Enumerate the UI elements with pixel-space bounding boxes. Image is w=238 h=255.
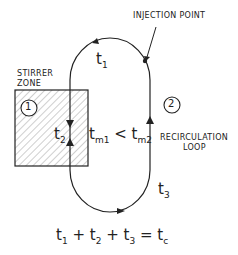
injection-pointer (147, 27, 156, 57)
zone-2-number: 2 (168, 98, 174, 109)
circulation-time-equation: t1 + t2 + t3 = tc (56, 226, 168, 246)
recirculation-label: RECIRCULATION (160, 133, 228, 143)
recirculation-diagram: INJECTION POINT STIRRER ZONE 1 2 RECIRCU… (0, 0, 238, 255)
mixing-time-relation: tm1 < tm2 (89, 125, 152, 145)
t2-label: t2 (54, 125, 66, 145)
injection-point-label: INJECTION POINT (133, 11, 205, 21)
zone-1-number: 1 (25, 101, 31, 112)
t1-label: t1 (96, 50, 108, 70)
loop-label: LOOP (183, 143, 206, 153)
stirrer-label: STIRRER (17, 69, 53, 79)
arrow-right-icon (117, 208, 125, 214)
arrow-left-icon (92, 38, 99, 44)
t3-label: t3 (158, 180, 170, 200)
zone-label: ZONE (17, 79, 41, 89)
arrow-up-icon (146, 116, 154, 124)
